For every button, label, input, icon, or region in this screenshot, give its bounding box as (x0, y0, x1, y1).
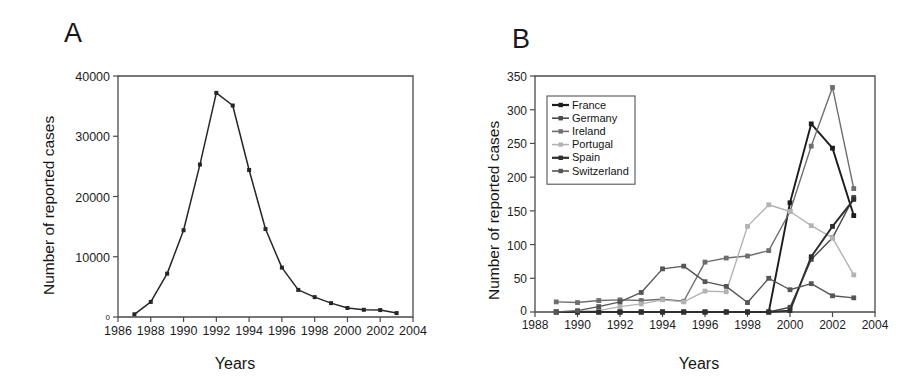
svg-text:0: 0 (520, 304, 527, 318)
data-point (660, 310, 665, 315)
data-point (724, 310, 729, 315)
data-point (198, 163, 202, 167)
data-point (830, 235, 835, 240)
data-point (165, 272, 169, 276)
data-point (596, 298, 601, 303)
panel-b-x-axis-label: Years (465, 355, 923, 373)
data-point (182, 228, 186, 232)
svg-text:150: 150 (507, 205, 527, 219)
data-point (280, 266, 284, 270)
data-point (703, 289, 708, 294)
data-point (618, 310, 623, 315)
series-line-united kingdom (134, 93, 396, 314)
data-point (830, 85, 835, 90)
data-point (296, 288, 300, 292)
svg-text:1992: 1992 (202, 324, 230, 338)
svg-text:1994: 1994 (235, 324, 263, 338)
svg-text:30000: 30000 (75, 130, 110, 144)
data-point (554, 310, 559, 315)
data-point (703, 310, 708, 315)
data-point (554, 299, 559, 304)
data-point (809, 254, 814, 259)
legend-label-france: France (572, 99, 606, 111)
panel-a-plot: 0100002000030000400001986198819901992199… (0, 0, 470, 387)
svg-text:100: 100 (507, 239, 527, 253)
data-point (618, 304, 623, 309)
data-point (362, 308, 366, 312)
data-point (851, 273, 856, 278)
svg-text:350: 350 (507, 70, 527, 84)
svg-text:200: 200 (507, 171, 527, 185)
data-point (703, 279, 708, 284)
data-point (681, 264, 686, 269)
data-point (313, 295, 317, 299)
svg-text:2000: 2000 (334, 324, 362, 338)
panel-b-plot: 0501001502002503003501988199019921994199… (455, 0, 923, 387)
svg-text:0: 0 (106, 313, 111, 322)
legend-label-germany: Germany (572, 112, 618, 124)
data-point (724, 289, 729, 294)
data-point (378, 308, 382, 312)
data-point (745, 310, 750, 315)
data-point (639, 310, 644, 315)
data-point (264, 227, 268, 231)
data-point (681, 310, 686, 315)
data-point (809, 144, 814, 149)
data-point (724, 256, 729, 261)
data-point (681, 299, 686, 304)
svg-text:1990: 1990 (564, 318, 591, 332)
panel-a: A Number of reported cases 0100002000030… (0, 0, 470, 387)
data-point (660, 266, 665, 271)
data-point (395, 311, 399, 315)
data-point (329, 301, 333, 305)
svg-text:2004: 2004 (862, 318, 889, 332)
svg-text:1996: 1996 (692, 318, 719, 332)
data-point (809, 223, 814, 228)
data-point (618, 299, 623, 304)
data-point (745, 300, 750, 305)
svg-text:1988: 1988 (137, 324, 165, 338)
svg-text:1996: 1996 (268, 324, 296, 338)
svg-text:1992: 1992 (607, 318, 634, 332)
svg-text:40000: 40000 (75, 70, 110, 84)
data-point (788, 287, 793, 292)
data-point (851, 186, 856, 191)
data-point (830, 146, 835, 151)
svg-text:2000: 2000 (777, 318, 804, 332)
data-point (214, 91, 218, 95)
svg-text:300: 300 (507, 104, 527, 118)
panel-b: B Number of reported cases 0501001502002… (455, 0, 923, 387)
data-point (851, 295, 856, 300)
data-point (766, 310, 771, 315)
data-point (745, 224, 750, 229)
data-point (575, 308, 580, 313)
data-point (231, 104, 235, 108)
data-point (660, 297, 665, 302)
svg-text:50: 50 (514, 272, 528, 286)
data-point (809, 121, 814, 126)
svg-text:1988: 1988 (522, 318, 549, 332)
legend-label-spain: Spain (572, 151, 600, 163)
svg-text:1994: 1994 (649, 318, 676, 332)
svg-text:20000: 20000 (75, 191, 110, 205)
svg-text:10000: 10000 (75, 251, 110, 265)
data-point (766, 248, 771, 253)
legend-label-ireland: Ireland (572, 125, 606, 137)
svg-text:2002: 2002 (366, 324, 394, 338)
data-point (788, 209, 793, 214)
data-point (596, 304, 601, 309)
data-point (830, 224, 835, 229)
svg-text:250: 250 (507, 137, 527, 151)
svg-text:2002: 2002 (819, 318, 846, 332)
data-point (809, 281, 814, 286)
data-point (703, 260, 708, 265)
data-point (851, 197, 856, 202)
data-point (745, 254, 750, 259)
data-point (596, 310, 601, 315)
data-point (575, 300, 580, 305)
svg-text:2004: 2004 (399, 324, 427, 338)
svg-text:1998: 1998 (301, 324, 329, 338)
legend-label-switzerland: Switzerland (572, 165, 629, 177)
data-point (345, 306, 349, 310)
data-point (132, 312, 136, 316)
